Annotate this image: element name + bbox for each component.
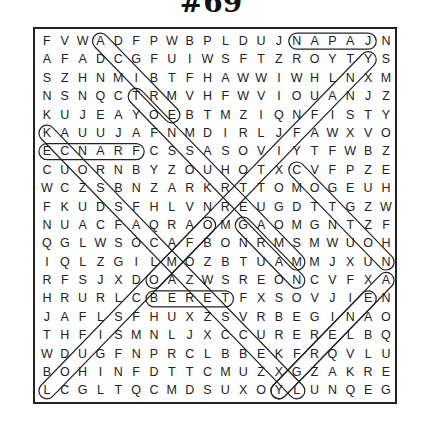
grid-cell[interactable]: C bbox=[234, 326, 252, 344]
grid-cell[interactable]: M bbox=[306, 253, 324, 271]
grid-cell[interactable]: O bbox=[181, 253, 199, 271]
grid-cell[interactable]: M bbox=[270, 234, 288, 252]
grid-cell[interactable]: T bbox=[341, 50, 359, 68]
grid-cell[interactable]: R bbox=[306, 345, 324, 363]
grid-cell[interactable]: Z bbox=[199, 253, 217, 271]
grid-cell[interactable]: F bbox=[127, 308, 145, 326]
grid-cell[interactable]: H bbox=[38, 289, 56, 307]
grid-cell[interactable]: A bbox=[109, 106, 127, 124]
grid-cell[interactable]: W bbox=[234, 87, 252, 105]
grid-cell[interactable]: Z bbox=[359, 198, 377, 216]
grid-cell[interactable]: C bbox=[56, 142, 74, 160]
grid-cell[interactable]: C bbox=[145, 142, 163, 160]
grid-cell[interactable]: B bbox=[181, 106, 199, 124]
grid-cell[interactable]: C bbox=[109, 50, 127, 68]
grid-cell[interactable]: U bbox=[74, 124, 92, 142]
grid-cell[interactable]: Y bbox=[288, 142, 306, 160]
grid-cell[interactable]: P bbox=[145, 32, 163, 50]
grid-cell[interactable]: F bbox=[234, 289, 252, 307]
grid-cell[interactable]: R bbox=[163, 345, 181, 363]
grid-cell[interactable]: R bbox=[234, 124, 252, 142]
grid-cell[interactable]: Y bbox=[127, 106, 145, 124]
grid-cell[interactable]: R bbox=[359, 363, 377, 381]
grid-cell[interactable]: V bbox=[56, 32, 74, 50]
grid-cell[interactable]: X bbox=[181, 308, 199, 326]
grid-cell[interactable]: Z bbox=[92, 253, 110, 271]
grid-cell[interactable]: F bbox=[74, 326, 92, 344]
grid-cell[interactable]: A bbox=[216, 69, 234, 87]
grid-cell[interactable]: D bbox=[199, 124, 217, 142]
grid-cell[interactable]: H bbox=[377, 179, 395, 197]
grid-cell[interactable]: F bbox=[56, 271, 74, 289]
grid-cell[interactable]: H bbox=[145, 198, 163, 216]
grid-cell[interactable]: Z bbox=[359, 161, 377, 179]
grid-cell[interactable]: S bbox=[181, 142, 199, 160]
grid-cell[interactable]: T bbox=[38, 326, 56, 344]
grid-cell[interactable]: L bbox=[38, 381, 56, 399]
grid-cell[interactable]: N bbox=[377, 32, 395, 50]
grid-cell[interactable]: Z bbox=[199, 308, 217, 326]
grid-cell[interactable]: O bbox=[145, 106, 163, 124]
grid-cell[interactable]: N bbox=[199, 198, 217, 216]
grid-cell[interactable]: F bbox=[109, 345, 127, 363]
grid-cell[interactable]: G bbox=[234, 216, 252, 234]
grid-cell[interactable]: A bbox=[74, 216, 92, 234]
grid-cell[interactable]: A bbox=[199, 142, 217, 160]
grid-cell[interactable]: V bbox=[341, 345, 359, 363]
grid-cell[interactable]: V bbox=[252, 142, 270, 160]
grid-cell[interactable]: S bbox=[56, 87, 74, 105]
grid-cell[interactable]: Q bbox=[341, 381, 359, 399]
grid-cell[interactable]: G bbox=[306, 216, 324, 234]
grid-cell[interactable]: X bbox=[109, 271, 127, 289]
grid-cell[interactable]: N bbox=[127, 179, 145, 197]
grid-cell[interactable]: R bbox=[56, 289, 74, 307]
grid-cell[interactable]: G bbox=[288, 363, 306, 381]
grid-cell[interactable]: C bbox=[145, 381, 163, 399]
grid-cell[interactable]: M bbox=[216, 363, 234, 381]
grid-cell[interactable]: S bbox=[216, 142, 234, 160]
grid-cell[interactable]: E bbox=[341, 179, 359, 197]
grid-cell[interactable]: N bbox=[324, 216, 342, 234]
grid-cell[interactable]: Z bbox=[234, 106, 252, 124]
grid-cell[interactable]: M bbox=[288, 253, 306, 271]
grid-cell[interactable]: K bbox=[341, 363, 359, 381]
grid-cell[interactable]: L bbox=[163, 326, 181, 344]
grid-cell[interactable]: P bbox=[145, 345, 163, 363]
grid-cell[interactable]: E bbox=[163, 106, 181, 124]
grid-cell[interactable]: I bbox=[127, 253, 145, 271]
grid-cell[interactable]: O bbox=[288, 87, 306, 105]
grid-cell[interactable]: B bbox=[359, 326, 377, 344]
grid-cell[interactable]: N bbox=[341, 87, 359, 105]
grid-cell[interactable]: Q bbox=[56, 253, 74, 271]
grid-cell[interactable]: X bbox=[234, 381, 252, 399]
grid-cell[interactable]: M bbox=[163, 253, 181, 271]
grid-cell[interactable]: R bbox=[234, 271, 252, 289]
grid-cell[interactable]: T bbox=[252, 179, 270, 197]
grid-cell[interactable]: B bbox=[234, 345, 252, 363]
grid-cell[interactable]: F bbox=[216, 87, 234, 105]
grid-cell[interactable]: C bbox=[38, 161, 56, 179]
grid-cell[interactable]: D bbox=[234, 32, 252, 50]
grid-cell[interactable]: O bbox=[234, 142, 252, 160]
grid-cell[interactable]: J bbox=[359, 32, 377, 50]
grid-cell[interactable]: O bbox=[234, 161, 252, 179]
grid-cell[interactable]: A bbox=[163, 234, 181, 252]
grid-cell[interactable]: U bbox=[56, 216, 74, 234]
letter-grid[interactable]: FVWADFPWBPLDUJNAPAJNAFADCGFUIWSFTZROYTYS… bbox=[38, 32, 395, 400]
grid-cell[interactable]: F bbox=[38, 32, 56, 50]
grid-cell[interactable]: U bbox=[234, 363, 252, 381]
grid-cell[interactable]: Z bbox=[359, 216, 377, 234]
grid-cell[interactable]: U bbox=[56, 161, 74, 179]
grid-cell[interactable]: M bbox=[306, 234, 324, 252]
grid-cell[interactable]: N bbox=[163, 124, 181, 142]
grid-cell[interactable]: Z bbox=[377, 87, 395, 105]
grid-cell[interactable]: X bbox=[341, 253, 359, 271]
grid-cell[interactable]: G bbox=[377, 381, 395, 399]
grid-cell[interactable]: A bbox=[56, 308, 74, 326]
grid-cell[interactable]: B bbox=[145, 69, 163, 87]
grid-cell[interactable]: A bbox=[324, 363, 342, 381]
grid-cell[interactable]: Y bbox=[359, 50, 377, 68]
grid-cell[interactable]: A bbox=[306, 124, 324, 142]
grid-cell[interactable]: T bbox=[216, 289, 234, 307]
grid-cell[interactable]: Q bbox=[145, 216, 163, 234]
